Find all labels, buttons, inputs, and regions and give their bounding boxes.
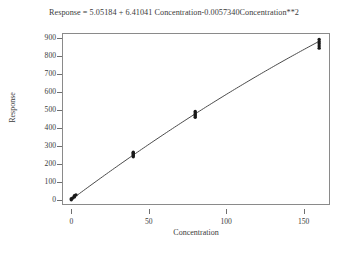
data-point <box>317 38 320 41</box>
plot-area <box>62 33 330 205</box>
regression-chart-figure: Response = 5.05184 + 6.41041 Concentrati… <box>0 0 348 257</box>
data-point <box>132 151 135 154</box>
fit-curve-line <box>71 41 319 199</box>
x-tick-label: 0 <box>56 217 86 226</box>
x-tick-label: 150 <box>289 217 319 226</box>
y-tick-label: 700 <box>26 69 56 78</box>
y-tick-label: 800 <box>26 51 56 60</box>
y-tick-label: 0 <box>26 195 56 204</box>
data-point <box>74 193 77 196</box>
y-tick-label: 400 <box>26 123 56 132</box>
y-tick-label: 600 <box>26 87 56 96</box>
y-tick-label: 100 <box>26 177 56 186</box>
x-tick-mark <box>71 209 72 214</box>
y-tick-label: 200 <box>26 159 56 168</box>
x-axis-label: Concentration <box>62 228 330 237</box>
data-point-group <box>70 38 321 202</box>
x-tick-label: 50 <box>134 217 164 226</box>
x-tick-mark <box>149 209 150 214</box>
x-tick-mark <box>304 209 305 214</box>
y-tick-label: 500 <box>26 105 56 114</box>
x-tick-mark <box>226 209 227 214</box>
x-tick-label: 100 <box>211 217 241 226</box>
y-tick-label: 300 <box>26 141 56 150</box>
y-tick-label: 900 <box>26 33 56 42</box>
y-axis-label: Response <box>8 78 17 138</box>
data-point <box>194 110 197 113</box>
chart-title: Response = 5.05184 + 6.41041 Concentrati… <box>0 8 348 17</box>
